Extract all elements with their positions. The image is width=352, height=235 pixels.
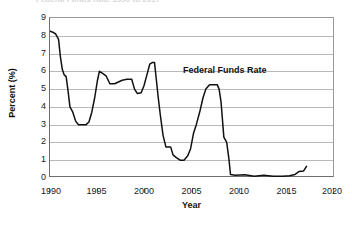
y-tick-label-0: 0 [6, 173, 46, 182]
x-tick-label-1990: 1990 [31, 186, 71, 196]
y-tick-label-7: 7 [6, 49, 46, 58]
y-axis-tick-labels: 9 8 7 6 5 4 3 2 1 0 [3, 17, 46, 177]
x-tick-label-2010: 2010 [219, 186, 259, 196]
x-tick-label-2020: 2020 [312, 186, 352, 196]
y-tick-label-2: 2 [6, 137, 46, 146]
y-tick-label-8: 8 [6, 31, 46, 40]
x-tick-label-2005: 2005 [172, 186, 212, 196]
x-tick-label-2000: 2000 [124, 186, 164, 196]
y-tick-label-1: 1 [6, 155, 46, 164]
y-tick-label-4: 4 [6, 102, 46, 111]
series-line-federal-funds-rate [50, 18, 335, 178]
chart-title: Federal Funds Rate 1990 to 2017 [36, 0, 316, 5]
y-tick-label-3: 3 [6, 120, 46, 129]
plot-area [49, 17, 334, 177]
x-tick-label-1995: 1995 [77, 186, 117, 196]
y-tick-label-6: 6 [6, 66, 46, 75]
series-annotation-label: Federal Funds Rate [183, 65, 267, 75]
y-tick-label-5: 5 [6, 84, 46, 93]
x-axis-title: Year [49, 200, 334, 210]
x-axis-tick-labels: 1990 1995 2000 2005 2010 2015 2020 [49, 181, 334, 193]
x-tick-label-2015: 2015 [267, 186, 307, 196]
chart-figure: Federal Funds Rate 1990 to 2017 Percent … [0, 0, 352, 235]
y-tick-label-9: 9 [6, 13, 46, 22]
